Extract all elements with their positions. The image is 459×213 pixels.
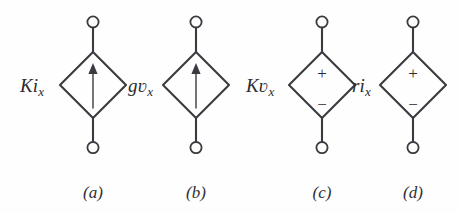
control-label-b: gʋx bbox=[128, 76, 153, 98]
dependent-source-b: gʋx (b) bbox=[150, 0, 266, 213]
source-a-symbol bbox=[0, 0, 150, 213]
dependent-source-figure: Kix (a) gʋx (b) bbox=[0, 0, 459, 213]
dependent-source-d: + − rix (d) bbox=[369, 0, 459, 213]
control-label-c-main: Kʋ bbox=[246, 75, 268, 96]
dependent-source-c: + − Kʋx (c) bbox=[266, 0, 369, 213]
control-label-c: Kʋx bbox=[246, 76, 274, 98]
terminal-circle-bottom bbox=[190, 142, 201, 153]
caption-c: (c) bbox=[292, 184, 352, 201]
control-label-b-main: gʋ bbox=[128, 75, 147, 96]
control-label-d-subscript: x bbox=[365, 84, 371, 99]
terminal-circle-top bbox=[87, 16, 98, 27]
polarity-plus: + bbox=[312, 65, 332, 82]
source-b-symbol bbox=[150, 0, 266, 213]
terminal-circle-bottom bbox=[316, 142, 327, 153]
control-label-c-subscript: x bbox=[268, 84, 274, 99]
caption-d: (d) bbox=[383, 184, 443, 201]
control-label-d-main: ri bbox=[352, 75, 365, 96]
terminal-circle-top bbox=[316, 16, 327, 27]
dependent-source-a: Kix (a) bbox=[0, 0, 150, 213]
current-arrow-head bbox=[88, 63, 97, 74]
control-label-a-main: Ki bbox=[20, 75, 38, 96]
current-arrow-head bbox=[191, 63, 200, 74]
polarity-minus: − bbox=[312, 96, 332, 113]
terminal-circle-top bbox=[190, 16, 201, 27]
caption-a: (a) bbox=[63, 184, 123, 201]
control-label-b-subscript: x bbox=[147, 84, 153, 99]
control-label-a: Kix bbox=[20, 76, 44, 98]
polarity-plus: + bbox=[403, 65, 423, 82]
control-label-d: rix bbox=[352, 76, 371, 98]
control-label-a-subscript: x bbox=[38, 84, 44, 99]
terminal-circle-top bbox=[407, 16, 418, 27]
terminal-circle-bottom bbox=[407, 142, 418, 153]
polarity-minus: − bbox=[403, 96, 423, 113]
terminal-circle-bottom bbox=[87, 142, 98, 153]
caption-b: (b) bbox=[166, 184, 226, 201]
